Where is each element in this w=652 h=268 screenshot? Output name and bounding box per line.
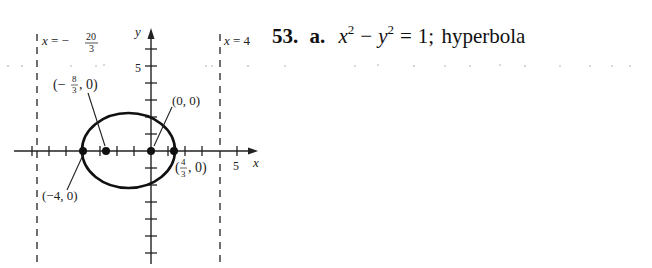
label-neg8-3-num: 8: [72, 74, 77, 84]
tick-label-5-x: 5: [233, 159, 239, 173]
point-neg4: [79, 147, 87, 155]
directrix-right-label: x = 4: [223, 33, 251, 48]
label-4-3-den: 3: [181, 169, 186, 179]
y-axis-arrow-icon: [148, 28, 155, 39]
problem-number: 53.: [272, 24, 298, 48]
classification: hyperbola: [441, 24, 525, 48]
directrix-left-label: x = −: [41, 33, 69, 48]
label-neg8-3-post: , 0): [79, 77, 98, 93]
part-label: a.: [310, 24, 326, 48]
scan-noise: [0, 63, 652, 69]
label-neg8-3-den: 3: [72, 85, 77, 95]
label-origin: (0, 0): [172, 93, 200, 108]
label-neg4: (−4, 0): [42, 188, 78, 203]
label-4-3-num: 4: [181, 157, 186, 167]
answer-line: 53. a. x2−y2=1; hyperbola: [272, 22, 525, 49]
x-axis-arrow-icon: [248, 148, 258, 155]
label-neg8-3-pre: (−: [53, 77, 66, 93]
x-axis: [14, 146, 258, 156]
label-4-3-post: , 0): [188, 160, 207, 176]
point-origin: [147, 147, 155, 155]
label-4-3-pre: (: [175, 160, 180, 176]
point-4-3: [170, 147, 178, 155]
leader-origin: [154, 107, 172, 146]
directrix-left-num: 20: [86, 31, 96, 42]
directrix-left-den: 3: [89, 43, 94, 54]
x-axis-label: x: [252, 155, 259, 170]
leader-neg4: [67, 155, 83, 190]
equation: x2−y2=1;: [339, 24, 435, 48]
ellipse-graph: y x 5 5 x = − 20 3 x = 4 (− 8 3 , 0) (0,…: [0, 0, 280, 268]
point-neg8-3: [102, 147, 110, 155]
y-axis-label: y: [133, 24, 141, 39]
